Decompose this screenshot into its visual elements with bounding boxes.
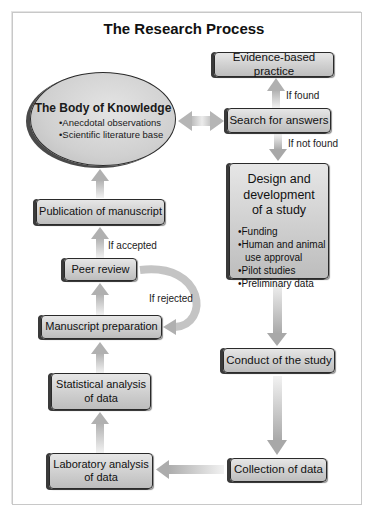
arrow-manuscript-to-peer (91, 283, 109, 315)
body-of-knowledge-heading: The Body of Knowledge (31, 101, 175, 115)
arrow-search-to-evidence (267, 78, 285, 108)
evidence-label: Evidence-based practice (215, 51, 333, 79)
bullet-literature: Scientific literature base (59, 129, 163, 141)
arrow-conduct-to-collection (267, 376, 287, 455)
bullet-pilot: Pilot studies (238, 264, 328, 277)
arrow-search-to-design (269, 134, 287, 161)
node-laboratory-analysis: Laboratory analysis of data (49, 453, 153, 489)
body-of-knowledge-bullets: Anecdotal observations Scientific litera… (59, 117, 163, 141)
publication-label: Publication of manuscript (39, 205, 162, 218)
search-label: Search for answers (229, 114, 328, 128)
node-publication: Publication of manuscript (36, 199, 165, 225)
manuscript-label: Manuscript preparation (45, 320, 158, 333)
design-heading-1: Design and (230, 172, 328, 188)
node-peer-review: Peer review (64, 258, 137, 281)
design-heading-3: of a study (230, 203, 328, 219)
node-design-development: Design and development of a study Fundin… (229, 163, 329, 279)
arrow-collection-to-lab (156, 460, 224, 479)
node-manuscript-preparation: Manuscript preparation (41, 315, 162, 339)
bullet-approval: Human and animal use approval (238, 238, 328, 264)
node-conduct-of-study: Conduct of the study (223, 348, 335, 373)
design-heading-2: development (230, 188, 328, 204)
edge-label-if-accepted: If accepted (108, 240, 157, 251)
arrow-statistical-to-manuscript (91, 342, 109, 373)
edge-label-if-found: If found (286, 90, 319, 101)
bullet-funding: Funding (238, 225, 328, 238)
design-bullets: Funding Human and animal use approval Pi… (230, 225, 328, 290)
bullet-preliminary: Preliminary data (238, 277, 328, 290)
arrow-publication-to-body (91, 169, 109, 198)
node-collection-of-data: Collection of data (230, 458, 327, 482)
conduct-label: Conduct of the study (226, 354, 331, 368)
node-body-of-knowledge: The Body of Knowledge Anecdotal observat… (30, 72, 176, 166)
arrow-design-to-conduct (267, 282, 287, 346)
laboratory-line-2: of data (84, 471, 118, 484)
arrow-peer-to-publication (91, 227, 109, 258)
statistical-line-2: of data (84, 392, 118, 405)
collection-label: Collection of data (234, 463, 323, 477)
node-statistical-analysis: Statistical analysis of data (51, 373, 151, 410)
edge-label-if-rejected: If rejected (149, 293, 193, 304)
laboratory-line-1: Laboratory analysis (53, 458, 148, 471)
statistical-line-1: Statistical analysis (56, 378, 146, 391)
bullet-anecdotal: Anecdotal observations (59, 117, 163, 129)
arrow-lab-to-statistical (91, 412, 109, 453)
node-search-for-answers: Search for answers (227, 108, 331, 133)
edge-label-if-not-found: If not found (288, 138, 338, 149)
peer-review-label: Peer review (71, 263, 129, 276)
node-evidence-based-practice: Evidence-based practice (214, 52, 334, 77)
arrow-body-search-bidirectional (178, 111, 224, 131)
